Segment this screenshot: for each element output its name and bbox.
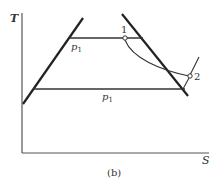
connector-line-2	[183, 78, 189, 89]
upper-isobar-label: p1	[71, 41, 82, 54]
point-1-marker	[123, 36, 127, 40]
saturated-liquid-line	[23, 18, 83, 104]
ts-diagram: T S p1 p1 1 2 (b)	[0, 0, 220, 189]
lower-isobar-label: p1	[102, 91, 113, 104]
saturated-vapor-line	[122, 14, 188, 96]
y-axis-label: T	[10, 12, 19, 25]
x-axis-label: S	[202, 154, 210, 167]
point-2-label: 2	[194, 71, 200, 82]
point-1-label: 1	[121, 24, 127, 35]
point-2-marker	[188, 74, 192, 78]
lower-isobar-label-sub: 1	[108, 96, 112, 104]
figure-caption: (b)	[107, 167, 121, 178]
upper-isobar-label-sub: 1	[77, 46, 81, 54]
